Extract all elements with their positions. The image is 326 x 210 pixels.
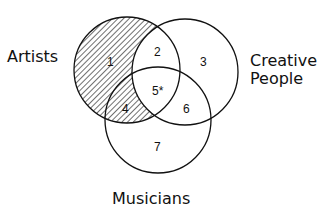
region-7: 7	[154, 140, 161, 154]
region-5: 5*	[152, 84, 164, 98]
region-6: 6	[183, 102, 190, 116]
region-2: 2	[154, 45, 161, 59]
region-3: 3	[200, 55, 207, 69]
musicians-label: Musicians	[112, 189, 190, 208]
region-1: 1	[107, 55, 114, 69]
venn-diagram: Artists Creative People Musicians 1 2 3 …	[0, 0, 326, 210]
region-4: 4	[122, 102, 129, 116]
people-label: People	[250, 69, 303, 88]
artists-label: Artists	[7, 47, 58, 66]
creative-label: Creative	[250, 51, 317, 70]
